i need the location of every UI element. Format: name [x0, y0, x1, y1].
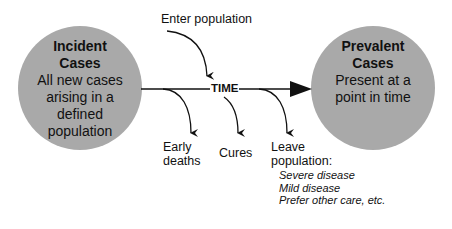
incident-cases-desc-4: population	[18, 123, 142, 140]
early-deaths-label: Early deaths	[163, 140, 201, 168]
prevalent-cases-title-1: Prevalent	[311, 38, 435, 55]
prevalent-cases-desc-1: Present at a	[311, 72, 435, 89]
prevalent-cases-text: Prevalent Cases Present at a point in ti…	[311, 38, 435, 106]
cures-arrow	[224, 97, 238, 133]
incident-cases-title-1: Incident	[18, 38, 142, 55]
incident-cases-text: Incident Cases All new cases arising in …	[18, 38, 142, 140]
enter-population-arrow	[167, 31, 207, 76]
enter-population-label: Enter population	[161, 12, 252, 26]
leave-reason-severe: Severe disease	[279, 169, 385, 182]
leave-reason-mild: Mild disease	[279, 182, 385, 195]
prevalent-cases-desc-2: point in time	[311, 89, 435, 106]
early-deaths-line-2: deaths	[163, 154, 201, 168]
leave-population-line-1: Leave	[271, 140, 332, 154]
prevalent-cases-title-2: Cases	[311, 55, 435, 72]
incident-cases-desc-1: All new cases	[18, 72, 142, 89]
incident-cases-title-2: Cases	[18, 55, 142, 72]
incident-cases-desc-2: arising in a	[18, 89, 142, 106]
leave-population-line-2: population:	[271, 154, 332, 168]
cures-label: Cures	[219, 146, 252, 160]
leave-population-label: Leave population:	[271, 140, 332, 168]
leave-reason-other: Prefer other care, etc.	[279, 194, 385, 207]
early-deaths-arrow	[163, 89, 191, 133]
early-deaths-line-1: Early	[163, 140, 201, 154]
leave-reasons-list: Severe disease Mild disease Prefer other…	[279, 169, 385, 207]
time-label: TIME	[210, 82, 239, 94]
incident-cases-desc-3: defined	[18, 106, 142, 123]
leave-population-arrow	[259, 89, 287, 133]
time-arrowhead-icon	[290, 81, 312, 97]
